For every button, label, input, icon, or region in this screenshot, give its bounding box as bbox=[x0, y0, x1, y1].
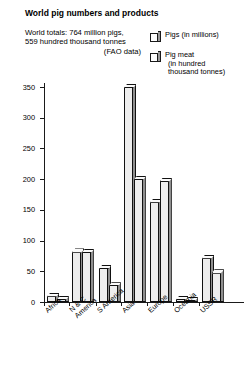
y-axis-tick bbox=[40, 118, 44, 119]
y-axis-tick-label: 100 bbox=[13, 236, 35, 245]
y-axis-tick-label: 350 bbox=[13, 83, 35, 92]
bar-chart-plot: 050100150200250300350AfricaN & CAmericaS… bbox=[0, 0, 250, 371]
bar-front-face bbox=[124, 87, 133, 302]
y-axis-tick-label: 150 bbox=[13, 205, 35, 214]
y-axis-tick-label: 0 bbox=[13, 298, 35, 307]
bar bbox=[134, 176, 146, 302]
y-axis-tick bbox=[40, 179, 44, 180]
bar-front-face bbox=[134, 179, 143, 302]
y-axis-tick bbox=[40, 241, 44, 242]
y-axis-tick bbox=[40, 148, 44, 149]
y-axis-tick-label: 300 bbox=[13, 113, 35, 122]
x-axis-tick-label: Africa bbox=[43, 296, 63, 315]
y-axis-tick-label: 200 bbox=[13, 175, 35, 184]
y-axis-tick-label: 250 bbox=[13, 144, 35, 153]
y-axis-tick-label: 50 bbox=[13, 267, 35, 276]
bar bbox=[160, 178, 172, 302]
bar-front-face bbox=[160, 181, 169, 302]
bar-front-face bbox=[150, 202, 159, 302]
y-axis-tick bbox=[40, 271, 44, 272]
y-axis-tick bbox=[40, 87, 44, 88]
y-axis-line bbox=[44, 83, 45, 303]
chart-page: World pig numbers and products World tot… bbox=[0, 0, 250, 371]
y-axis-tick bbox=[40, 210, 44, 211]
bar-front-face bbox=[202, 258, 211, 302]
